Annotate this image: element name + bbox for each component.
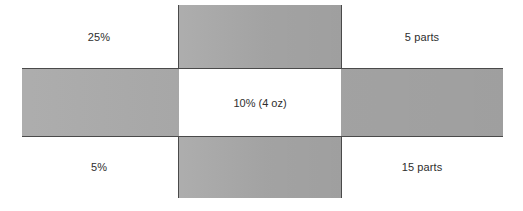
center-label: 10% (4 oz) [233, 97, 286, 109]
bottom-right-label: 15 parts [342, 161, 502, 173]
top-right-label: 5 parts [342, 31, 502, 43]
bottom-left-label: 5% [20, 161, 178, 173]
top-left-label: 25% [20, 31, 178, 43]
alligation-diagram: 10% (4 oz) 25% 5 parts 5% 15 parts [0, 0, 523, 211]
center-cell: 10% (4 oz) [179, 69, 341, 136]
